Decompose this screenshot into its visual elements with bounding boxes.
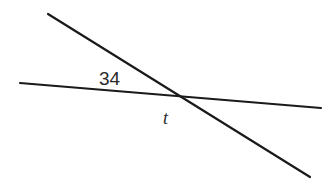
intersecting-lines-diagram: 34 t <box>0 0 335 186</box>
horizontal-line <box>20 83 321 108</box>
angle-label-34: 34 <box>99 68 121 89</box>
angle-label-t: t <box>163 108 169 128</box>
